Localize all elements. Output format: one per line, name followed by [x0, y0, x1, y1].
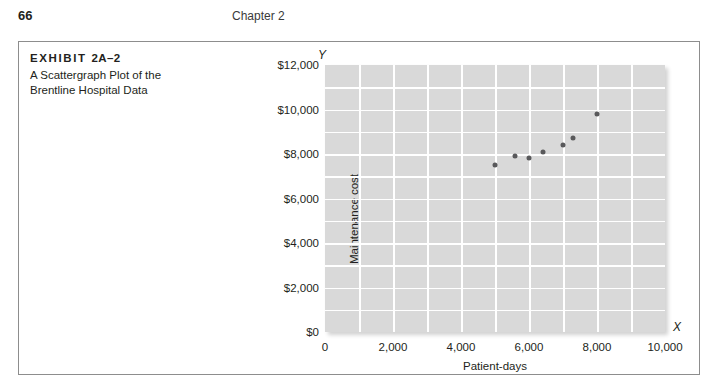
gridline-horizontal [325, 154, 665, 156]
exhibit-label-word: EXHIBIT [30, 52, 87, 64]
gridline-horizontal [325, 221, 665, 223]
exhibit-subtitle-line-1: A Scattergraph Plot of the [30, 68, 230, 83]
page-number: 66 [18, 8, 32, 23]
data-point [493, 163, 498, 168]
exhibit-subtitle-line-2: Brentline Hospital Data [30, 83, 230, 98]
gridline-horizontal [325, 265, 665, 267]
data-point [513, 154, 518, 159]
gridline-horizontal [325, 110, 665, 112]
running-head: Chapter 2 [232, 9, 285, 23]
gridline-horizontal [325, 199, 665, 201]
data-point [571, 136, 576, 141]
gridline-horizontal [325, 87, 665, 89]
exhibit-caption: EXHIBIT 2A–2 A Scattergraph Plot of the … [30, 52, 230, 98]
exhibit-label: EXHIBIT 2A–2 [30, 52, 230, 64]
data-point [527, 156, 532, 161]
gridline-horizontal [325, 310, 665, 312]
gridline-horizontal [325, 243, 665, 245]
plot-area[interactable]: Maintenance cost [325, 65, 665, 332]
data-point [540, 149, 545, 154]
exhibit-subtitle: A Scattergraph Plot of the Brentline Hos… [30, 68, 230, 98]
exhibit-label-number: 2A–2 [91, 52, 120, 64]
data-point [561, 143, 566, 148]
data-point [595, 111, 600, 116]
gridline-horizontal [325, 132, 665, 134]
gridline-horizontal [325, 176, 665, 178]
gridline-horizontal [325, 288, 665, 290]
